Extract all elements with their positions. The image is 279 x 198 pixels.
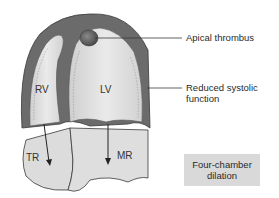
- apical-thrombus-label: Apical thrombus: [186, 32, 254, 43]
- four-chamber-dilation-box: Four-chamber dilation: [184, 154, 260, 186]
- tr-label: TR: [26, 152, 39, 163]
- heart-diagram: RV LV TR MR Apical thrombus Reduced syst…: [0, 0, 279, 198]
- mr-label: MR: [117, 150, 133, 161]
- lv-label: LV: [100, 84, 112, 95]
- rv-label: RV: [35, 84, 49, 95]
- dilation-box-line2: dilation: [207, 170, 237, 181]
- reduced-systolic-label-line1: Reduced systolic: [186, 82, 258, 93]
- dilation-box-line1: Four-chamber: [192, 159, 252, 170]
- reduced-systolic-label-line2: function: [186, 93, 219, 104]
